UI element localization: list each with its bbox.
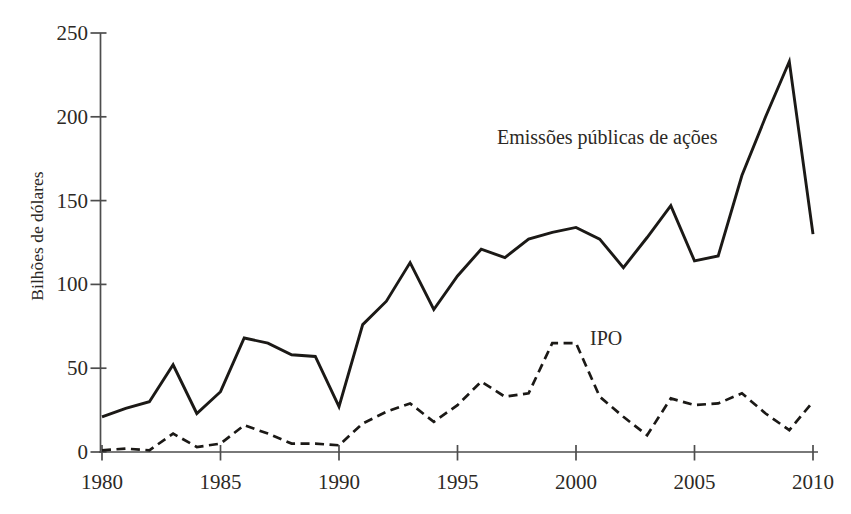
x-tick-label: 2000 <box>555 470 597 494</box>
series-label-ipo: IPO <box>590 327 622 350</box>
x-tick-label: 1990 <box>318 470 360 494</box>
x-tick-label: 1995 <box>437 470 479 494</box>
y-tick-label: 100 <box>57 272 89 296</box>
y-tick-label: 150 <box>57 189 89 213</box>
x-tick-label: 2005 <box>674 470 716 494</box>
x-tick-label: 1980 <box>81 470 123 494</box>
y-axis-title: Bilhões de dólares <box>27 171 48 300</box>
y-tick-label: 250 <box>57 21 89 45</box>
series-label-emissoes-publicas: Emissões públicas de ações <box>497 126 718 149</box>
y-tick-label: 50 <box>67 356 88 380</box>
y-tick-label: 0 <box>78 440 89 464</box>
chart-figure: 0501001502002501980198519901995200020052… <box>0 0 851 514</box>
series-line-emissoes-publicas <box>102 62 813 417</box>
x-tick-label: 2010 <box>792 470 834 494</box>
series-line-ipo <box>102 343 813 450</box>
y-tick-label: 200 <box>57 105 89 129</box>
x-tick-label: 1985 <box>200 470 242 494</box>
chart-canvas: 0501001502002501980198519901995200020052… <box>0 0 851 514</box>
